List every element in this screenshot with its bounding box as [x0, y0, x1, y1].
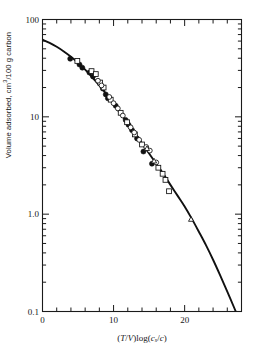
- data-point-open-square: [125, 120, 130, 125]
- figure: 01020 0.11.010100 Volume adsorbed, cm3/1…: [0, 0, 260, 353]
- y-tick-label: 0.1: [28, 307, 39, 317]
- data-point-filled-circle: [68, 56, 73, 61]
- plot-frame: [43, 20, 242, 312]
- y-tick-label: 100: [26, 15, 40, 25]
- x-axis-label: (T/V)log(cs/c): [42, 333, 242, 343]
- data-point-open-circle: [96, 78, 101, 83]
- y-tick-label: 10: [30, 112, 40, 122]
- data-point-open-square: [160, 171, 165, 176]
- data-point-open-circle: [111, 101, 116, 106]
- data-point-open-circle: [120, 113, 125, 118]
- data-point-open-square: [167, 189, 172, 194]
- data-point-open-circle: [115, 106, 120, 111]
- x-tick-label: 0: [40, 315, 45, 325]
- x-axis-tick-labels: 01020: [40, 315, 189, 325]
- y-tick-label: 1.0: [28, 209, 40, 219]
- data-point-filled-circle: [80, 65, 85, 70]
- y-axis-ticks: [43, 20, 242, 312]
- data-point-open-circle: [128, 125, 133, 130]
- curve-path: [43, 40, 238, 315]
- y-axis-label: Volume adsorbed, cm3/100 g carbon: [4, 5, 18, 185]
- data-markers: [68, 56, 194, 221]
- x-tick-label: 20: [180, 315, 190, 325]
- y-axis-tick-labels: 0.11.010100: [26, 15, 40, 317]
- data-point-open-circle: [107, 95, 112, 100]
- x-axis-label-log: log(: [136, 333, 151, 343]
- data-point-open-circle: [99, 83, 104, 88]
- data-curve: [43, 40, 238, 315]
- chart-canvas: 01020 0.11.010100: [0, 0, 260, 353]
- y-axis-label-text: Volume adsorbed, cm3/100 g carbon: [4, 32, 13, 158]
- data-point-open-circle: [132, 130, 137, 135]
- data-point-open-square: [75, 59, 80, 64]
- data-point-open-square: [163, 177, 168, 182]
- x-axis-label-paren-close2: ): [164, 333, 167, 343]
- data-point-open-square: [156, 165, 161, 170]
- data-point-open-circle: [137, 137, 142, 142]
- x-axis-ticks: [43, 20, 228, 312]
- x-tick-label: 10: [109, 315, 119, 325]
- data-point-open-square: [93, 72, 98, 77]
